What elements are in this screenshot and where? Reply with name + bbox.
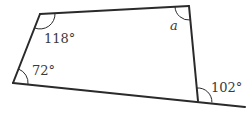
- figure-canvas: [0, 0, 250, 114]
- angle-label-top-right: a: [170, 19, 178, 32]
- angle-label-top-left: 118°: [44, 32, 75, 45]
- angle-label-exterior-bottom-right: 102°: [211, 81, 242, 94]
- arc-exterior-bottom-right: [197, 88, 212, 103]
- angle-label-bottom-left: 72°: [32, 64, 55, 77]
- edge-top: [40, 6, 189, 14]
- arc-bottom-left: [19, 69, 29, 85]
- edge-right: [189, 6, 198, 101]
- quadrilateral-figure: 118° a 72° 102°: [0, 0, 250, 114]
